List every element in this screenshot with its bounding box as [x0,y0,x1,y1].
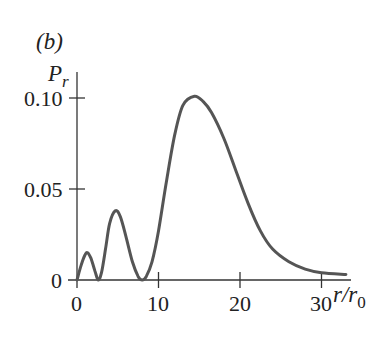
xtick-label-0: 0 [71,293,82,315]
ytick-label-0: 0 [51,270,62,292]
x-axis-label-sub: 0 [357,293,366,312]
ytick-label-0.05: 0.05 [24,179,63,201]
x-axis-label-main: r/r [333,282,357,307]
ytick-label-0.10: 0.10 [24,88,63,110]
xtick-label-10: 10 [147,293,169,315]
panel-label: (b) [36,30,63,53]
panel-label-text: (b) [36,29,63,54]
y-axis-label-sub: r [62,72,69,91]
probability-curve [77,96,346,280]
y-axis-label-main: P [48,61,62,86]
x-axis-label: r/r0 [333,283,366,311]
xtick-label-30: 30 [310,293,332,315]
xtick-label-20: 20 [229,293,251,315]
